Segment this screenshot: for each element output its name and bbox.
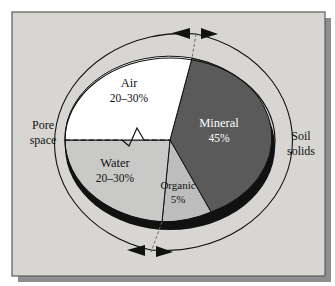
slice-label-air: Air <box>121 76 139 90</box>
bracket-label-pore-space-line1: Pore <box>32 118 54 132</box>
slice-label-organic: Organic <box>160 179 195 191</box>
bracket-label-soil-solids-line2: solids <box>287 144 315 158</box>
slice-value-air: 20–30% <box>110 92 149 104</box>
bracket-label-pore-space-line2: space <box>30 133 57 147</box>
slice-value-mineral: 45% <box>208 132 230 144</box>
slice-value-organic: 5% <box>171 193 186 205</box>
bracket-label-soil-solids-line1: Soil <box>291 129 311 143</box>
pie-chart-svg: Air 20–30% Mineral 45% Water 20–30% Orga… <box>0 0 335 286</box>
slice-value-water: 20–30% <box>96 172 135 184</box>
slice-label-mineral: Mineral <box>199 116 239 130</box>
slice-label-water: Water <box>100 156 130 170</box>
soil-composition-figure: Air 20–30% Mineral 45% Water 20–30% Orga… <box>0 0 335 286</box>
